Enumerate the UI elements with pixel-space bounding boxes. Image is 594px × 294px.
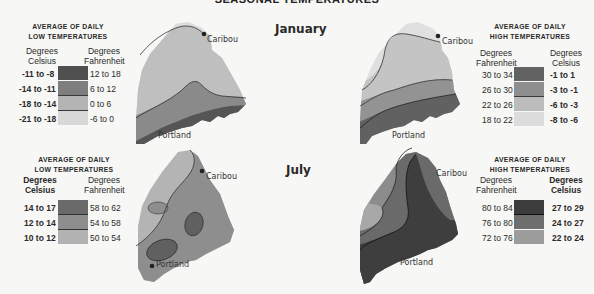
swatch-medium	[58, 96, 88, 111]
city-label-caribou: Caribou	[442, 37, 473, 46]
celsius-range: 10 to 12	[24, 233, 56, 243]
swatch-medium	[514, 97, 544, 111]
fahrenheit-range: 54 to 58	[90, 218, 121, 228]
city-label-caribou: Caribou	[206, 172, 237, 181]
fahrenheit-range: 76 to 80	[482, 218, 513, 228]
fahrenheit-range: 50 to 54	[90, 233, 121, 243]
fahrenheit-range: 30 to 34	[482, 70, 513, 80]
swatch-medium	[58, 230, 88, 244]
legend-january-low: AVERAGE OF DAILY LOW TEMPERATURES Degree…	[0, 22, 140, 122]
celsius-range: 22 to 24	[552, 233, 584, 243]
swatch-light	[514, 112, 544, 126]
legend-july-low: AVERAGE OF DAILY LOW TEMPERATURES Degree…	[0, 155, 140, 245]
swatch-darkest	[514, 67, 544, 81]
legend-heading: AVERAGE OF DAILY LOW TEMPERATURES	[23, 155, 125, 175]
city-label-caribou: Caribou	[436, 169, 467, 178]
fahrenheit-header: DegreesFahrenheit	[84, 175, 124, 195]
figure-title: SEASONAL TEMPERATURES	[0, 0, 594, 5]
month-label-july: July	[286, 163, 311, 177]
map-january-high: Caribou Portland	[340, 10, 480, 145]
city-label-caribou: Caribou	[207, 35, 238, 44]
fahrenheit-range: 72 to 76	[482, 233, 513, 243]
legend-heading: AVERAGE OF DAILY HIGH TEMPERATURES	[479, 22, 581, 42]
celsius-range: -14 to -11	[19, 84, 56, 94]
fahrenheit-header: DegreesFahrenheit	[84, 46, 124, 66]
swatch-dark	[514, 215, 544, 229]
fahrenheit-range: 18 to 22	[482, 115, 513, 125]
celsius-range: 24 to 27	[552, 218, 584, 228]
celsius-range: 14 to 17	[24, 203, 56, 213]
swatch-dark	[514, 82, 544, 97]
fahrenheit-range: 12 to 18	[90, 69, 121, 79]
fahrenheit-range: 58 to 62	[90, 203, 121, 213]
celsius-header: DegreesCelsius	[22, 46, 62, 66]
month-label-january: January	[275, 22, 327, 36]
legend-heading: AVERAGE OF DAILY HIGH TEMPERATURES	[479, 155, 581, 175]
swatch-darkest	[514, 200, 544, 215]
celsius-range: -1 to 1	[550, 70, 575, 80]
map-july-high: Caribou Portland	[340, 146, 480, 294]
legend-july-high: AVERAGE OF DAILY HIGH TEMPERATURES Degre…	[470, 155, 594, 245]
celsius-range: -18 to -14	[19, 99, 56, 109]
city-label-portland: Portland	[392, 131, 425, 140]
city-label-portland: Portland	[158, 131, 191, 140]
city-label-portland: Portland	[156, 260, 189, 269]
city-marker-portland	[150, 264, 155, 269]
celsius-range: -8 to -6	[550, 115, 578, 125]
swatch-darkest	[58, 66, 88, 80]
city-marker-caribou	[436, 34, 441, 39]
celsius-header: DegreesCelsius	[546, 48, 586, 68]
fahrenheit-range: 80 to 84	[482, 203, 513, 213]
swatch-medium	[514, 230, 544, 244]
city-marker-caribou	[200, 169, 205, 174]
celsius-header: DegreesCelsius	[546, 175, 586, 195]
legend-january-high: AVERAGE OF DAILY HIGH TEMPERATURES Degre…	[470, 22, 594, 122]
celsius-range: -6 to -3	[550, 100, 578, 110]
fahrenheit-range: 0 to 6	[90, 99, 111, 109]
city-marker-caribou	[202, 32, 207, 37]
swatch-dark	[58, 81, 88, 96]
fahrenheit-range: 6 to 12	[90, 84, 116, 94]
legend-heading: AVERAGE OF DAILY LOW TEMPERATURES	[17, 22, 119, 42]
swatch-dark	[58, 215, 88, 230]
fahrenheit-header: DegreesFahrenheit	[476, 48, 516, 68]
map-january-low: Caribou Portland	[130, 10, 270, 145]
celsius-range: -3 to -1	[550, 85, 578, 95]
city-label-portland: Portland	[400, 258, 433, 267]
map-july-low: Caribou Portland	[130, 146, 270, 294]
celsius-header: DegreesCelsius	[20, 175, 60, 195]
fahrenheit-range: 22 to 26	[482, 100, 513, 110]
celsius-range: -21 to -18	[19, 114, 56, 124]
swatch-darkest	[58, 200, 88, 215]
fahrenheit-range: 26 to 30	[482, 85, 513, 95]
celsius-range: 27 to 29	[552, 203, 584, 213]
fahrenheit-range: -6 to 0	[90, 114, 114, 124]
swatch-light	[58, 111, 88, 125]
fahrenheit-header: DegreesFahrenheit	[476, 175, 516, 195]
celsius-range: 12 to 14	[24, 218, 56, 228]
celsius-range: -11 to -8	[22, 69, 54, 79]
